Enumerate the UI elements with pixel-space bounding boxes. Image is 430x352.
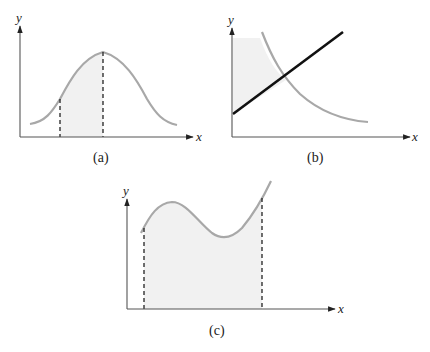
panel-a-y-label: y: [14, 10, 22, 25]
panel-c-shaded-region: [144, 198, 262, 309]
panel-c: x y (c): [121, 181, 344, 339]
panel-c-caption: (c): [209, 323, 225, 339]
panel-a-caption: (a): [93, 150, 109, 166]
panel-c-x-label: x: [337, 301, 344, 316]
panel-c-y-label: y: [121, 183, 129, 198]
panel-a-x-label: x: [195, 129, 202, 144]
panel-b: x y (b): [226, 12, 418, 166]
panel-b-shaded-region: [233, 38, 286, 114]
panel-a: x y (a): [14, 10, 202, 166]
panel-b-x-label: x: [411, 129, 418, 144]
panel-b-caption: (b): [307, 150, 324, 166]
panel-b-y-label: y: [226, 12, 234, 27]
figure: x y (a) x y (b) x y (c): [0, 0, 430, 352]
